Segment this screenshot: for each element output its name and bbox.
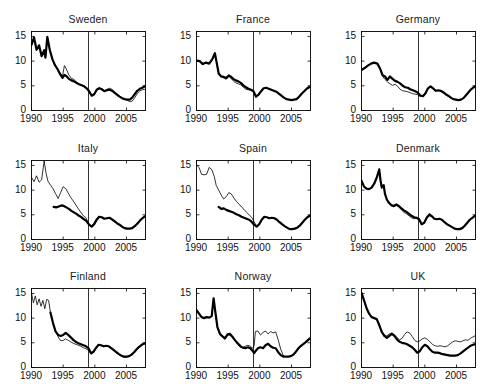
y-axis-tick-label: 15 [0,160,26,170]
x-axis-tick-label: 2000 [408,114,440,124]
x-axis-tick-label: 2005 [440,371,472,381]
y-axis-tick-label: 15 [165,288,191,298]
y-axis-tick-label: 15 [330,160,356,170]
y-axis-tick-label: 15 [330,31,356,41]
panel-title: Italy [31,142,145,154]
x-axis-tick-label: 2000 [408,243,440,253]
x-axis-tick-label: 2000 [243,114,275,124]
y-axis-tick-label: 5 [0,209,26,219]
y-axis-tick-label: 15 [330,288,356,298]
x-axis-tick-label: 1995 [377,114,409,124]
x-axis-tick-label: 1990 [15,371,47,381]
panel-title: Germany [361,13,475,25]
panel-denmark: Denmark0510151990199520002005 [330,142,484,261]
x-axis-tick-label: 2000 [78,371,110,381]
y-axis-tick-label: 5 [330,337,356,347]
y-axis-tick-label: 15 [165,31,191,41]
x-axis-tick-label: 2005 [275,243,307,253]
panel-title: Spain [196,142,310,154]
x-axis-tick-label: 2005 [275,371,307,381]
panel-italy: Italy0510151990199520002005 [0,142,154,261]
plot-area [31,160,146,240]
x-axis-tick-label: 1990 [180,114,212,124]
y-axis-tick-label: 10 [165,56,191,66]
x-axis-tick-label: 2005 [275,114,307,124]
panel-title: Finland [31,270,145,282]
panel-sweden: Sweden0510151990199520002005 [0,13,154,132]
plot-area [361,31,476,111]
x-axis-tick-label: 1990 [180,371,212,381]
x-axis-tick-label: 2000 [78,114,110,124]
y-axis-tick-label: 5 [165,337,191,347]
x-axis-tick-label: 1990 [345,243,377,253]
y-axis-tick-label: 15 [0,31,26,41]
panel-title: Sweden [31,13,145,25]
plot-area [196,160,311,240]
panel-title: France [196,13,310,25]
x-axis-tick-label: 2005 [440,243,472,253]
y-axis-tick-label: 5 [0,337,26,347]
x-axis-tick-label: 1995 [212,371,244,381]
panel-spain: Spain0510151990199520002005 [165,142,319,261]
y-axis-tick-label: 5 [165,209,191,219]
x-axis-tick-label: 1995 [47,243,79,253]
y-axis-tick-label: 10 [330,313,356,323]
panel-title: Norway [196,270,310,282]
y-axis-tick-label: 5 [165,80,191,90]
x-axis-tick-label: 1990 [15,243,47,253]
panel-france: France0510151990199520002005 [165,13,319,132]
y-axis-tick-label: 5 [0,80,26,90]
panel-norway: Norway0510151990199520002005 [165,270,319,389]
y-axis-tick-label: 15 [165,160,191,170]
x-axis-tick-label: 1995 [377,371,409,381]
x-axis-tick-label: 2005 [110,114,142,124]
x-axis-tick-label: 1990 [345,114,377,124]
panel-uk: UK0510151990199520002005 [330,270,484,389]
y-axis-tick-label: 10 [330,56,356,66]
plot-area [196,31,311,111]
x-axis-tick-label: 2005 [110,371,142,381]
x-axis-tick-label: 2005 [110,243,142,253]
x-axis-tick-label: 1990 [180,243,212,253]
x-axis-tick-label: 1995 [377,243,409,253]
panel-title: Denmark [361,142,475,154]
x-axis-tick-label: 1995 [212,243,244,253]
plot-area [361,160,476,240]
x-axis-tick-label: 1990 [15,114,47,124]
y-axis-tick-label: 10 [0,313,26,323]
x-axis-tick-label: 1995 [47,371,79,381]
y-axis-tick-label: 10 [0,56,26,66]
plot-area [361,288,476,368]
x-axis-tick-label: 1995 [47,114,79,124]
x-axis-tick-label: 2000 [243,371,275,381]
y-axis-tick-label: 15 [0,288,26,298]
panel-finland: Finland0510151990199520002005 [0,270,154,389]
x-axis-tick-label: 1990 [345,371,377,381]
y-axis-tick-label: 10 [165,313,191,323]
plot-area [31,31,146,111]
y-axis-tick-label: 5 [330,209,356,219]
panel-title: UK [361,270,475,282]
panel-germany: Germany0510151990199520002005 [330,13,484,132]
figure-small-multiples: Sweden0510151990199520002005France051015… [0,0,486,391]
plot-area [196,288,311,368]
x-axis-tick-label: 2000 [243,243,275,253]
y-axis-tick-label: 10 [0,185,26,195]
x-axis-tick-label: 2000 [78,243,110,253]
y-axis-tick-label: 10 [165,185,191,195]
y-axis-tick-label: 10 [330,185,356,195]
x-axis-tick-label: 2000 [408,371,440,381]
x-axis-tick-label: 2005 [440,114,472,124]
y-axis-tick-label: 5 [330,80,356,90]
plot-area [31,288,146,368]
x-axis-tick-label: 1995 [212,114,244,124]
